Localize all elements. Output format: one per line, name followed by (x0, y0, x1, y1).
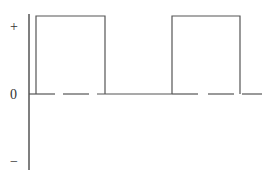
pulse-2 (172, 16, 240, 94)
pulse-diagram (0, 0, 274, 177)
pulse-1 (36, 16, 105, 94)
